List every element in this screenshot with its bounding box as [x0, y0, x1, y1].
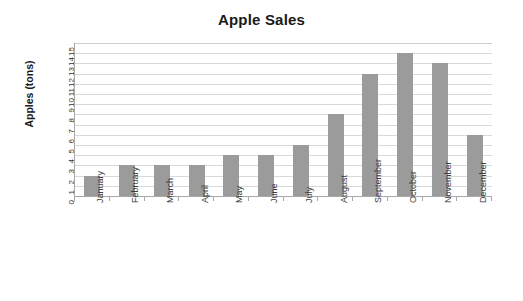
y-axis-tick-labels: 1514131211109876543210 — [52, 43, 72, 196]
y-axis-title: Apples (tons) — [23, 49, 35, 139]
bar-slot — [179, 43, 214, 196]
apple-sales-bar-chart: Apple Sales Apples (tons) 15141312111098… — [0, 0, 523, 301]
x-label-may: May — [234, 186, 244, 203]
x-label-november: November — [443, 161, 453, 203]
bar-slot — [318, 43, 353, 196]
x-tick-mark — [456, 196, 457, 201]
x-label-october: October — [408, 171, 418, 203]
x-tick-mark — [317, 196, 318, 201]
x-tick-mark — [109, 196, 110, 201]
x-label-january: January — [95, 171, 105, 203]
x-label-september: September — [373, 159, 383, 203]
x-label-march: March — [165, 178, 175, 203]
x-tick-mark — [74, 196, 75, 201]
x-tick-mark — [283, 196, 284, 201]
x-label-june: June — [269, 183, 279, 203]
x-tick-mark — [248, 196, 249, 201]
x-axis-category-labels: JanuaryFebruaryMarchAprilMayJuneJulyAugu… — [74, 203, 491, 291]
bar-slot — [214, 43, 249, 196]
x-label-august: August — [339, 175, 349, 203]
x-tick-mark — [422, 196, 423, 201]
x-label-december: December — [478, 161, 488, 203]
x-tick-mark — [213, 196, 214, 201]
bar-slot — [249, 43, 284, 196]
chart-title: Apple Sales — [0, 11, 523, 28]
x-tick-mark — [144, 196, 145, 201]
x-tick-mark — [387, 196, 388, 201]
x-label-april: April — [200, 185, 210, 203]
x-label-july: July — [304, 187, 314, 203]
x-tick-mark — [178, 196, 179, 201]
bar-slot — [145, 43, 180, 196]
x-tick-mark — [491, 196, 492, 201]
x-tick-mark — [352, 196, 353, 201]
bar-slot — [284, 43, 319, 196]
x-label-february: February — [130, 167, 140, 203]
